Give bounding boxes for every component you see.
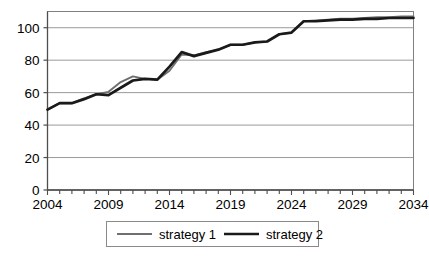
line-chart: 020406080100 200420092014201920242029203… [0,0,429,256]
y-tick-label-60: 60 [24,86,39,101]
x-tick-label-2009: 2009 [93,197,123,212]
y-tick-label-20: 20 [24,151,39,166]
y-tick-label-100: 100 [17,21,40,36]
y-tick-label-80: 80 [24,53,39,68]
y-tick-label-0: 0 [32,183,40,198]
x-tick-label-2029: 2029 [337,197,367,212]
x-tick-label-2034: 2034 [398,197,429,212]
y-tick-label-40: 40 [24,118,39,133]
legend-label-strategy-1: strategy 1 [159,227,216,242]
x-tick-label-2024: 2024 [276,197,307,212]
x-tick-label-2004: 2004 [32,197,63,212]
chart-canvas: 020406080100 200420092014201920242029203… [0,0,429,256]
legend-label-strategy-2: strategy 2 [266,227,323,242]
x-tick-label-2019: 2019 [215,197,245,212]
chart-background [0,0,429,256]
x-tick-label-2014: 2014 [154,197,185,212]
